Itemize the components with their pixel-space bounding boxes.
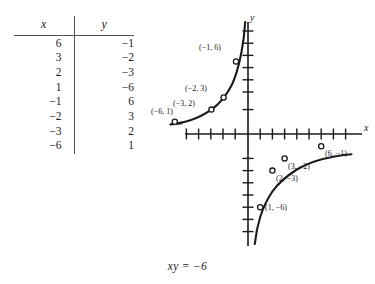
cell-y: −1 (74, 36, 134, 51)
point-label-3-neg2: (3, −2) (288, 162, 310, 171)
cell-x: 2 (14, 65, 74, 80)
table-row: 6−1 (14, 36, 134, 51)
table-row: 2−3 (14, 65, 134, 80)
cell-y: 2 (74, 124, 134, 139)
cell-y: 1 (74, 139, 134, 154)
cell-x: −1 (14, 95, 74, 110)
table-row: −16 (14, 95, 134, 110)
table-header: x y (14, 16, 134, 36)
point-neg3-2 (209, 107, 214, 112)
point-label-1-neg6: (1, −6) (265, 203, 287, 212)
value-table: x y 6−13−22−31−6−16−23−32−61 (14, 16, 134, 154)
point-label-neg3-2: (−3, 2) (173, 99, 195, 108)
cell-y: −3 (74, 65, 134, 80)
figure-caption: xy = −6 (0, 260, 375, 272)
table-header-row: x y (14, 16, 134, 36)
cell-x: −3 (14, 124, 74, 139)
curve-left-branch (171, 22, 246, 125)
point-label-neg2-3: (−2, 3) (185, 84, 207, 93)
cell-y: −2 (74, 51, 134, 66)
cell-x: −2 (14, 109, 74, 124)
y-axis-label: y (249, 12, 255, 23)
cell-x: 3 (14, 51, 74, 66)
point-1-neg6 (258, 205, 263, 210)
cell-y: 6 (74, 95, 134, 110)
cell-y: 3 (74, 109, 134, 124)
point-label-6-neg1: (6, −1) (325, 149, 347, 158)
point-label-2-neg3: (2, −3) (276, 174, 298, 183)
point-6-neg1 (319, 144, 324, 149)
cell-y: −6 (74, 80, 134, 95)
cell-x: 1 (14, 80, 74, 95)
table-body: 6−13−22−31−6−16−23−32−61 (14, 36, 134, 154)
table-row: 3−2 (14, 51, 134, 66)
table-row: −32 (14, 124, 134, 139)
column-header-y: y (74, 16, 134, 36)
x-axis-label: x (363, 122, 369, 133)
point-neg2-3 (221, 95, 226, 100)
table-row: 1−6 (14, 80, 134, 95)
table-row: −61 (14, 139, 134, 154)
point-labels: (−1, 6) (−2, 3) (−3, 2) (−6, 1) (6, −1) … (151, 43, 347, 212)
column-header-x: x (14, 16, 74, 36)
table-row: −23 (14, 109, 134, 124)
graph-figure: x y (−1, 6) (−2, 3) (−3, 2) (−6, 1) (6, … (150, 8, 375, 258)
point-neg6-1 (172, 119, 177, 124)
cell-x: 6 (14, 36, 74, 51)
xy-table: x y 6−13−22−31−6−16−23−32−61 (14, 16, 134, 154)
cell-x: −6 (14, 139, 74, 154)
point-2-neg3 (270, 168, 275, 173)
point-label-neg1-6: (−1, 6) (199, 43, 221, 52)
point-neg1-6 (233, 59, 238, 64)
point-3-neg2 (282, 156, 287, 161)
point-label-neg6-1: (−6, 1) (151, 107, 173, 116)
axes (185, 22, 362, 246)
